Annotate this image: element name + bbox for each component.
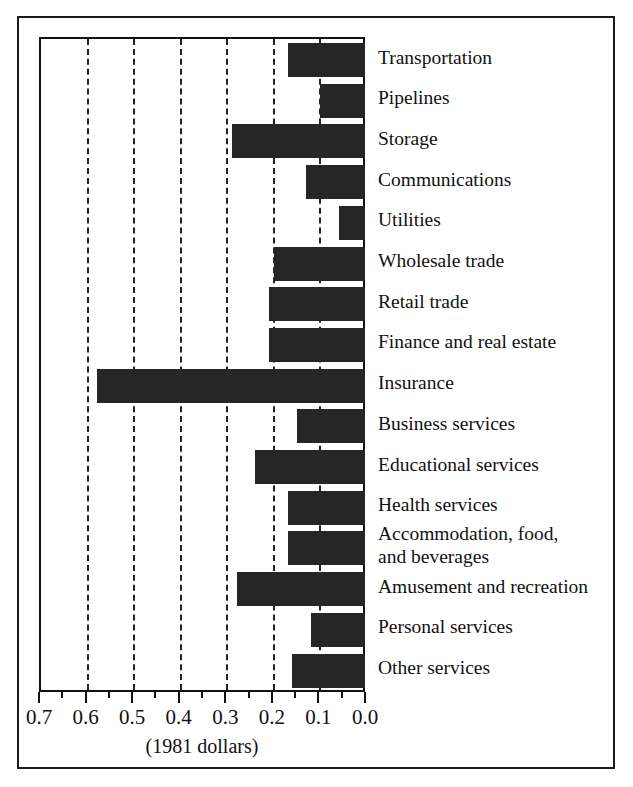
tick-label: 0.0 [352, 705, 378, 730]
bar [288, 531, 365, 565]
category-label: Retail trade [378, 290, 468, 313]
category-label: Wholesale trade [378, 249, 504, 272]
bar [269, 287, 365, 321]
tick-minor [61, 692, 63, 698]
category-label: Business services [378, 412, 515, 435]
tick-major [224, 692, 226, 703]
tick-label: 0.2 [259, 705, 285, 730]
plot-area [39, 37, 365, 690]
tick-major [271, 692, 273, 703]
tick-label: 0.1 [305, 705, 331, 730]
tick-minor [108, 692, 110, 698]
tick-minor [154, 692, 156, 698]
tick-minor [248, 692, 250, 698]
bar [311, 613, 365, 647]
bar [237, 572, 365, 606]
tick-label: 0.5 [119, 705, 145, 730]
category-label: Pipelines [378, 86, 450, 109]
category-label: Personal services [378, 615, 513, 638]
tick-label: 0.4 [166, 705, 192, 730]
category-label: Amusement and recreation [378, 575, 588, 598]
bars-group [41, 39, 363, 690]
tick-label: 0.6 [72, 705, 98, 730]
tick-label: 0.7 [26, 705, 52, 730]
bar [274, 247, 365, 281]
tick-major [178, 692, 180, 703]
x-axis-title: (1981 dollars) [39, 735, 365, 758]
category-label: Communications [378, 168, 511, 191]
tick-minor [341, 692, 343, 698]
tick-major [38, 692, 40, 703]
tick-major [364, 692, 366, 703]
bar [288, 43, 365, 77]
category-labels-group: TransportationPipelinesStorageCommunicat… [378, 37, 618, 690]
bar [292, 654, 365, 688]
category-label: Insurance [378, 371, 454, 394]
category-label: Storage [378, 127, 438, 150]
bar [320, 84, 365, 118]
category-label: Accommodation, food, and beverages [378, 522, 558, 568]
figure-bar-chart: 0.70.60.50.40.30.20.10.0 (1981 dollars) … [0, 0, 633, 787]
bar [306, 165, 365, 199]
category-label: Finance and real estate [378, 330, 556, 353]
tick-major [317, 692, 319, 703]
category-label: Educational services [378, 453, 539, 476]
bar [232, 124, 365, 158]
tick-minor [201, 692, 203, 698]
bar [269, 328, 365, 362]
tick-minor [294, 692, 296, 698]
bar [255, 450, 365, 484]
bar [339, 206, 365, 240]
category-label: Other services [378, 656, 490, 679]
category-label: Utilities [378, 208, 441, 231]
tick-label: 0.3 [212, 705, 238, 730]
category-label: Transportation [378, 46, 492, 69]
category-label: Health services [378, 493, 498, 516]
bar [297, 409, 365, 443]
tick-major [131, 692, 133, 703]
bar [288, 491, 365, 525]
tick-major [85, 692, 87, 703]
bar [97, 369, 365, 403]
